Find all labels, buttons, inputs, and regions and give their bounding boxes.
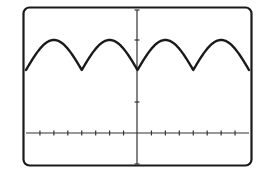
oscilloscope-screen bbox=[0, 0, 258, 182]
scope-svg bbox=[0, 0, 258, 182]
